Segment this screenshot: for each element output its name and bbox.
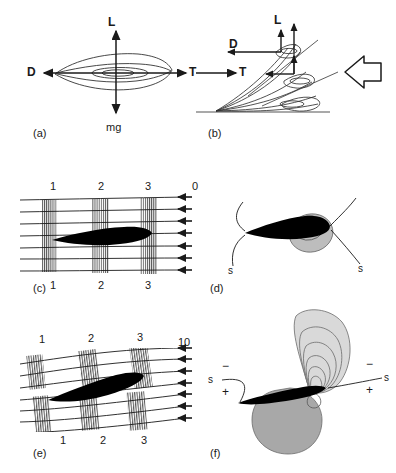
panel-d-graphic (232, 198, 360, 266)
panel-d-streamline-label-left: s (228, 266, 233, 276)
panel-b-wing-sequence (216, 44, 320, 111)
panel-f-positive-label-right: + (366, 384, 373, 396)
panel-c-graphic (20, 197, 192, 274)
panel-a-body-outline (55, 54, 172, 90)
panel-e-flow-arrows (178, 348, 192, 418)
panel-c-timeline-label-top-3: 3 (145, 181, 151, 192)
panel-e-timeline-label-top-2: 2 (88, 333, 94, 344)
panel-b-thrust-label: T (239, 66, 246, 78)
panel-e-timeline-label-bottom-2: 2 (100, 435, 106, 446)
panel-f-graphic (222, 310, 382, 454)
panel-b-graphic (196, 24, 381, 112)
figure-canvas: L D T mg (a) L D T (b) 1 2 3 0 1 2 3 (c)… (0, 0, 396, 473)
panel-e-timeline-label-bottom-1: 1 (60, 435, 66, 446)
panel-a-thrust-label: T (189, 66, 196, 78)
panel-f-streamline-label-left: s (208, 375, 213, 385)
panel-e-timeline-label-top-3: 3 (137, 332, 143, 343)
panel-d-airfoil (245, 216, 330, 239)
panel-e-graphic (20, 345, 192, 433)
panel-c-airfoil (52, 227, 152, 245)
panel-c-timeline-label-bottom-3: 3 (145, 280, 151, 291)
panel-b-freestream-arrow (345, 56, 381, 88)
panel-e-timeline-label-top-1: 1 (39, 334, 45, 345)
panel-b-drag-label: D (229, 38, 238, 50)
panel-e-timeline-label-bottom-3: 3 (141, 435, 147, 446)
figure-svg (0, 0, 396, 473)
panel-a-lift-label: L (108, 16, 115, 28)
panel-d-streamline-label-right: s (358, 264, 363, 274)
panel-b-key: (b) (208, 128, 221, 139)
panel-c-angle-label: 0 (192, 181, 198, 192)
panel-c-flow-arrows (178, 197, 192, 270)
panel-f-upper-contours (294, 310, 350, 393)
panel-f-positive-label-left: + (222, 386, 229, 398)
panel-f-key: (f) (210, 448, 220, 459)
panel-d-key: (d) (210, 283, 223, 294)
panel-a-graphic (44, 31, 186, 113)
panel-c-key: (c) (33, 283, 46, 294)
panel-e-angle-label: 10 (178, 337, 190, 348)
panel-a-key: (a) (33, 128, 46, 139)
panel-f-negative-label-left: − (222, 360, 229, 372)
panel-a-weight-label: mg (106, 122, 121, 133)
panel-f-negative-label-right: − (366, 358, 373, 370)
panel-c-timeline-label-bottom-2: 2 (98, 280, 104, 291)
panel-c-timeline-label-bottom-1: 1 (50, 280, 56, 291)
panel-c-timeline-label-top-1: 1 (50, 181, 56, 192)
panel-e-key: (e) (33, 448, 46, 459)
panel-b-lift-label: L (274, 14, 281, 26)
panel-c-timeline-label-top-2: 2 (98, 181, 104, 192)
panel-a-drag-label: D (27, 66, 36, 78)
panel-f-streamline-label-right: s (384, 373, 389, 383)
